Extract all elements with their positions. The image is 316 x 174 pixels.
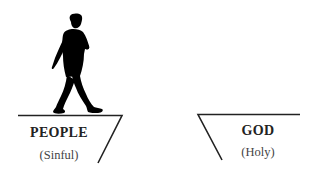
walking-man-icon (52, 14, 103, 114)
people-label: PEOPLE (14, 125, 104, 141)
sinful-label: (Sinful) (14, 148, 104, 163)
holy-label: (Holy) (228, 145, 288, 160)
god-label: GOD (228, 123, 288, 139)
